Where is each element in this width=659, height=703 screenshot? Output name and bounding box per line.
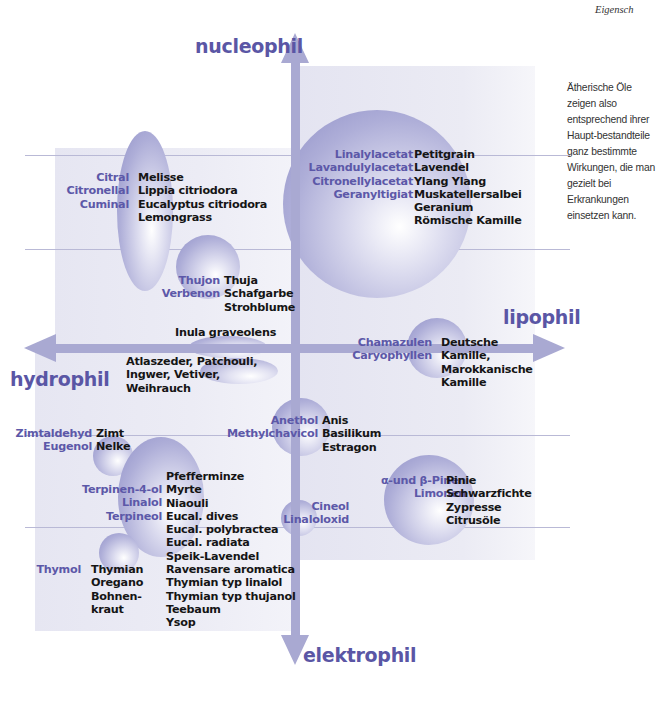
- compounds-cineol: Cineol Linaloloxid: [283, 500, 349, 527]
- compounds-zimt: Zimtaldehyd Eugenol: [16, 427, 92, 454]
- compounds-citral: Citral Citronellal Cuminal: [67, 171, 129, 211]
- axis-label-elektrophil: elektrophil: [303, 644, 416, 666]
- oils-thymol: Thymian Oregano Bohnen- kraut: [91, 563, 143, 616]
- arrow-right-icon: [533, 334, 565, 362]
- oils-anethol: Anis Basilikum Estragon: [322, 414, 381, 454]
- axis-label-hydrophil: hydrophil: [10, 368, 109, 390]
- oils-inula: Inula graveolens: [175, 326, 276, 339]
- axis-label-nucleophil: nucleophil: [195, 35, 303, 57]
- oils-chamazulen: Deutsche Kamille, Marokkanische Kamille: [441, 336, 533, 389]
- arrow-left-icon: [24, 334, 56, 362]
- oils-sesquiterpene: Atlaszeder, Patchouli, Ingwer, Vetiver, …: [126, 355, 257, 395]
- oils-pinen: Pinie Schwarzfichte Zypresse Citrusöle: [446, 474, 532, 527]
- oils-zimt: Zimt Nelke: [96, 427, 130, 454]
- compounds-chamazulen: Chamazulen Caryophyllen: [352, 336, 432, 363]
- axis-label-lipophil: lipophil: [503, 306, 580, 328]
- compounds-ester: Linalylacetat Lavandulylacetat Citronell…: [309, 148, 413, 201]
- oils-ester: Petitgrain Lavendel Ylang Ylang Muskatel…: [414, 148, 522, 228]
- compounds-anethol: Anethol Methylchavicol: [227, 414, 318, 441]
- compounds-terpineol: Terpinen-4-ol Linalol Terpineol: [82, 483, 162, 523]
- oils-thujon: Thuja Schafgarbe Strohblume: [224, 274, 295, 314]
- compounds-thujon: Thujon Verbenon: [162, 274, 220, 301]
- compounds-thymol: Thymol: [36, 563, 81, 576]
- oils-citral: Melisse Lippia citriodora Eucalyptus cit…: [138, 171, 267, 224]
- running-header: Eigensch: [595, 4, 634, 15]
- side-note: Ätherische Öle zeigen also entsprechend …: [567, 80, 659, 224]
- oils-terpineol: Pfefferminze Myrte Niaouli Eucal. dives …: [166, 470, 295, 630]
